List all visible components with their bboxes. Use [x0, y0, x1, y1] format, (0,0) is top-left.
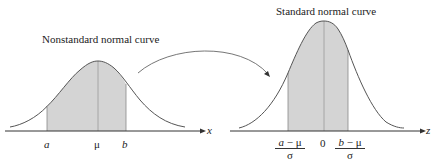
tick-right-denominator: σ	[335, 149, 365, 161]
z-axis-label: z	[426, 124, 430, 136]
left-curve-title: Nonstandard normal curve	[42, 33, 159, 45]
tick-b: b	[122, 138, 128, 150]
right-curve-title: Standard normal curve	[276, 5, 376, 17]
tick-left-numerator: a − μ	[275, 136, 305, 149]
right-shaded-area	[288, 21, 348, 131]
tick-zero: 0	[320, 137, 326, 149]
left-shaded-area	[47, 61, 126, 131]
tick-right-numerator-rest: − μ	[344, 136, 362, 148]
tick-right-numerator: b − μ	[335, 136, 365, 149]
diagram-canvas	[0, 0, 432, 162]
tick-right-standardized: b − μ σ	[335, 136, 365, 161]
transform-arrow-head-icon	[264, 71, 270, 77]
x-axis-label: x	[207, 124, 212, 136]
tick-left-standardized: a − μ σ	[275, 136, 305, 161]
tick-left-numerator-rest: − μ	[284, 136, 302, 148]
tick-mu: μ	[94, 138, 100, 150]
x-axis-arrow-icon	[200, 129, 206, 134]
tick-left-denominator: σ	[275, 149, 305, 161]
normal-curve-diagram: Nonstandard normal curve x a μ b Standar…	[0, 0, 432, 162]
transform-arrow	[138, 51, 268, 74]
tick-a: a	[44, 138, 50, 150]
